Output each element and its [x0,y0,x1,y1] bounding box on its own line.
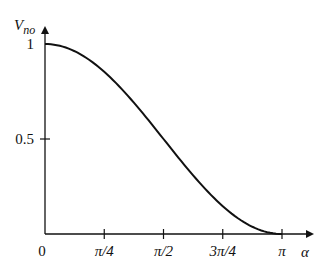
x-axis-label: α [301,244,310,260]
y-axis-label: Vno [14,17,35,37]
x-tick-label: π [278,243,286,259]
y-tick-label: 0.5 [15,131,34,147]
chart: 0.51 0π/4π/23π/4π Vno α [0,0,326,269]
y-tick-label: 1 [27,36,35,52]
x-tick-label: 0 [38,243,46,259]
x-tick-label: π/2 [154,243,174,259]
x-tick-label: 3π/4 [208,243,236,259]
x-tick-label: π/4 [95,243,115,259]
data-curve [45,44,282,234]
